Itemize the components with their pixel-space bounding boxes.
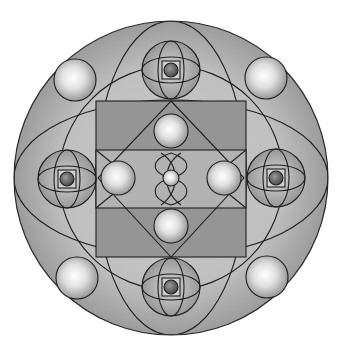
- eye-orb-right: [247, 149, 305, 207]
- corner-orb-top-right: [245, 57, 287, 99]
- pupil-icon: [164, 280, 178, 294]
- inner-orb-center: [163, 170, 179, 186]
- corner-orb-bottom-right: [246, 256, 288, 298]
- inner-orb-bottom: [154, 209, 188, 243]
- corner-orb-bottom-left: [56, 257, 98, 299]
- inner-orb-top: [154, 114, 188, 148]
- mandala-diagram: [0, 0, 339, 353]
- eye-orb-top: [142, 41, 200, 99]
- pupil-icon: [269, 171, 283, 185]
- inner-orb-left: [101, 161, 135, 195]
- inner-orb-right: [207, 161, 241, 195]
- eye-orb-left: [38, 150, 96, 208]
- pupil-icon: [60, 172, 74, 186]
- corner-orb-top-left: [54, 59, 96, 101]
- eye-orb-bottom: [142, 258, 200, 316]
- pupil-icon: [164, 63, 178, 77]
